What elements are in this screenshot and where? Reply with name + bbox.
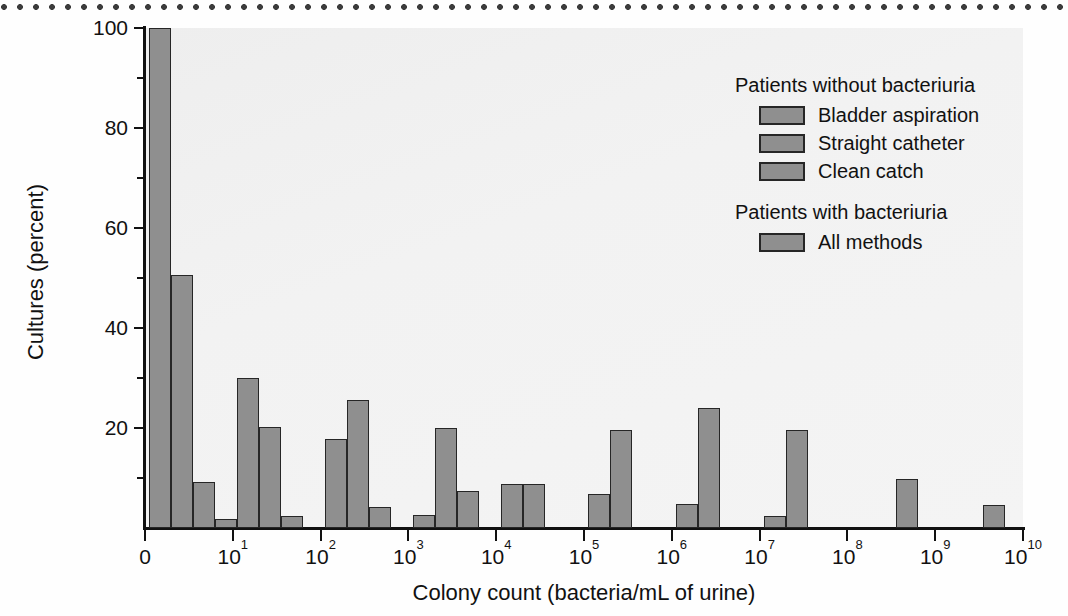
- legend-group-title-without: Patients without bacteriuria: [735, 72, 1035, 99]
- legend-label: Clean catch: [818, 161, 924, 181]
- x-axis-tick: [671, 530, 673, 541]
- x-axis-tick-label: 105: [569, 545, 600, 569]
- y-axis-tick: [137, 477, 143, 479]
- bar: [435, 428, 457, 529]
- y-axis-tick: [137, 77, 143, 79]
- x-axis-tick-label: 103: [393, 545, 424, 569]
- y-axis-tick: [134, 427, 143, 429]
- legend-item-bladder-aspiration[interactable]: Bladder aspiration: [759, 101, 1035, 129]
- x-axis-tick-label: 106: [657, 545, 688, 569]
- x-axis-tick: [934, 530, 936, 541]
- y-axis-tick: [137, 177, 143, 179]
- bar: [983, 505, 1005, 528]
- bar: [171, 275, 193, 528]
- bar: [149, 28, 171, 528]
- bar: [764, 516, 786, 528]
- bar: [193, 482, 215, 529]
- legend-swatch-icon: [759, 233, 805, 252]
- x-axis-tick: [1022, 530, 1024, 541]
- x-axis-tick: [407, 530, 409, 541]
- y-axis-tick-label: 100: [18, 17, 128, 38]
- x-axis-tick: [495, 530, 497, 541]
- page-top-dotted-rule: [0, 2, 1068, 14]
- y-axis-tick-label: 80: [18, 117, 128, 138]
- bar: [237, 378, 259, 528]
- bar: [281, 516, 303, 529]
- bar: [369, 507, 391, 528]
- legend-item-clean-catch[interactable]: Clean catch: [759, 157, 1035, 185]
- y-axis-tick: [137, 277, 143, 279]
- bar: [413, 515, 435, 528]
- x-axis-tick: [583, 530, 585, 541]
- x-axis-title: Colony count (bacteria/mL of urine): [145, 580, 1023, 606]
- x-axis-tick-label: 108: [832, 545, 863, 569]
- legend-label: All methods: [818, 232, 923, 252]
- x-axis-tick-label: 1010: [1004, 545, 1042, 569]
- y-axis-tick-label: 20: [18, 417, 128, 438]
- bar: [347, 400, 369, 528]
- legend-item-straight-catheter[interactable]: Straight catheter: [759, 129, 1035, 157]
- legend-group-title-with: Patients with bacteriuria: [735, 199, 1035, 226]
- bar: [896, 479, 918, 528]
- chart-legend: Patients without bacteriuria Bladder asp…: [735, 72, 1035, 256]
- legend-label: Straight catheter: [818, 133, 965, 153]
- y-axis-tick: [134, 27, 143, 29]
- legend-label: Bladder aspiration: [818, 105, 979, 125]
- bar: [610, 430, 632, 528]
- x-axis-tick-label: 104: [481, 545, 512, 569]
- x-axis-tick-label: 102: [305, 545, 336, 569]
- figure-page: 20406080100 0101102103104105106107108109…: [0, 0, 1068, 616]
- bar: [215, 519, 237, 529]
- chart-figure: 20406080100 0101102103104105106107108109…: [0, 14, 1068, 616]
- bar: [786, 430, 808, 528]
- legend-swatch-icon: [759, 106, 805, 125]
- x-axis-tick: [846, 530, 848, 541]
- bar: [325, 439, 347, 528]
- bar: [588, 494, 610, 528]
- y-axis-tick: [134, 227, 143, 229]
- bar: [676, 504, 698, 528]
- x-axis-tick-label: 109: [920, 545, 951, 569]
- y-axis-tick: [134, 327, 143, 329]
- bar: [457, 491, 479, 528]
- x-axis-tick-label: 107: [744, 545, 775, 569]
- x-axis-tick: [759, 530, 761, 541]
- x-axis-tick-label: 101: [218, 545, 249, 569]
- x-axis-tick: [144, 530, 146, 541]
- x-axis-tick: [232, 530, 234, 541]
- bar: [523, 484, 545, 528]
- bar: [698, 408, 720, 529]
- y-axis-tick: [137, 377, 143, 379]
- bar: [259, 427, 281, 529]
- legend-item-all-methods[interactable]: All methods: [759, 228, 1035, 256]
- legend-swatch-icon: [759, 162, 805, 181]
- x-axis-tick-label: 0: [139, 545, 151, 569]
- bar: [501, 484, 523, 528]
- x-axis-tick: [320, 530, 322, 541]
- y-axis-tick: [134, 127, 143, 129]
- y-axis-title: Cultures (percent): [23, 142, 49, 402]
- legend-swatch-icon: [759, 134, 805, 153]
